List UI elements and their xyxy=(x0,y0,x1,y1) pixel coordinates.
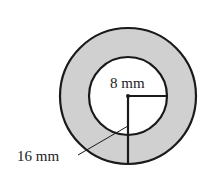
outer-radius-label: 16 mm xyxy=(17,148,59,164)
inner-radius-label: 8 mm xyxy=(110,75,145,91)
annulus-diagram: 8 mm 16 mm xyxy=(0,0,208,179)
center-point xyxy=(126,94,130,98)
